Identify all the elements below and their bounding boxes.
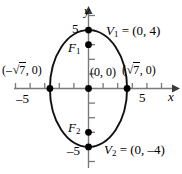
point-covertex-left xyxy=(47,85,54,92)
point-covertex-right xyxy=(124,85,131,92)
covertex-right-close: , 0) xyxy=(140,63,156,77)
covertex-right-radicand: 7 xyxy=(133,62,140,77)
vertex-bottom-coords: = (0, –4) xyxy=(116,142,165,157)
point-focus-top xyxy=(85,41,92,48)
covertex-left-open: (– xyxy=(2,63,12,77)
y-tick-label-minus5: –5 xyxy=(67,144,80,157)
focus-top-subscript: 1 xyxy=(76,46,80,56)
focus-bottom-symbol: F xyxy=(68,120,76,135)
x-tick-label-minus5: –5 xyxy=(16,92,29,105)
covertex-right-label: (√7, 0) xyxy=(122,64,156,76)
origin-label: (0, 0) xyxy=(90,66,116,78)
y-axis-label: y xyxy=(84,4,90,17)
focus-bottom-subscript: 2 xyxy=(76,126,80,136)
point-vertex-bottom xyxy=(85,144,92,151)
vertex-bottom-label: V2 = (0, –4) xyxy=(104,143,165,158)
point-origin xyxy=(85,85,92,92)
y-tick-label-5: 5 xyxy=(72,22,79,35)
x-tick-label-5: 5 xyxy=(139,91,146,104)
focus-bottom-label: F2 xyxy=(68,121,80,136)
covertex-left-radical-group: √7 xyxy=(12,64,26,76)
vertex-top-label: V1 = (0, 4) xyxy=(106,24,160,39)
covertex-left-label: (–√7, 0) xyxy=(2,64,42,76)
covertex-left-close: , 0) xyxy=(26,63,42,77)
ellipse-figure: y x 5 –5 –5 5 V1 = (0, 4) V2 = (0, –4) F… xyxy=(0,0,182,174)
vertex-top-symbol: V xyxy=(106,23,114,38)
point-vertex-top xyxy=(85,27,92,34)
point-focus-bottom xyxy=(85,129,92,136)
focus-top-label: F1 xyxy=(68,41,80,56)
covertex-right-radical-group: √7 xyxy=(126,64,140,76)
covertex-left-radicand: 7 xyxy=(19,62,26,77)
focus-top-symbol: F xyxy=(68,40,76,55)
vertex-bottom-symbol: V xyxy=(104,142,112,157)
vertex-top-coords: = (0, 4) xyxy=(118,23,160,38)
x-axis-label: x xyxy=(168,90,174,103)
